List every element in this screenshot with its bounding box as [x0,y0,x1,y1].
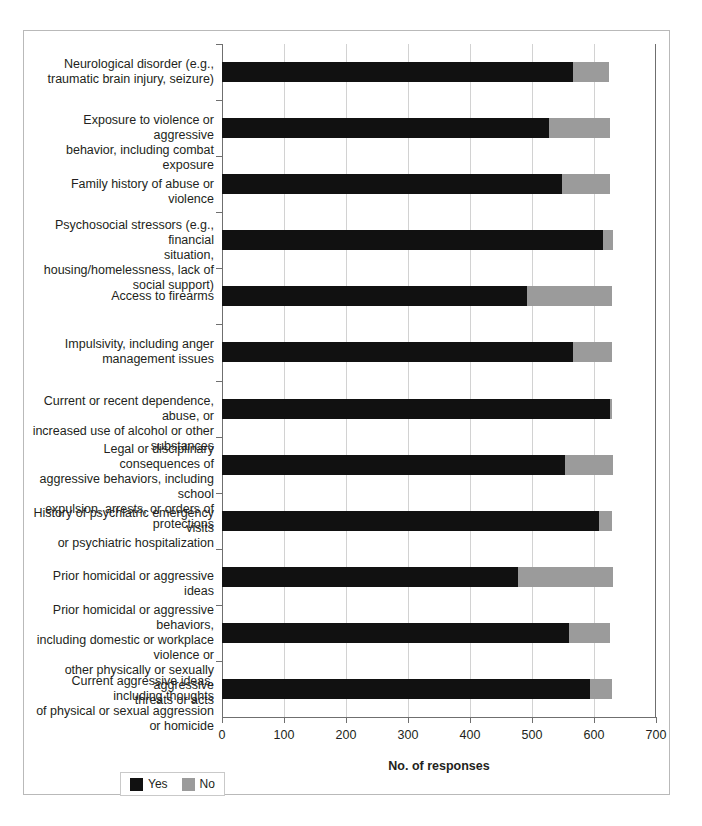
stacked-bar[interactable] [222,679,612,699]
bar-segment-no[interactable] [590,679,612,699]
bar-segment-no[interactable] [518,567,613,587]
bar-segment-no[interactable] [562,174,610,194]
bar-segment-yes[interactable] [222,118,549,138]
category-label-1: Exposure to violence or aggressivebehavi… [30,113,214,173]
y-tick-3 [216,212,222,213]
stacked-bar[interactable] [222,511,612,531]
gridline-200 [346,44,347,717]
bar-segment-no[interactable] [610,399,612,419]
bar-segment-no[interactable] [573,342,612,362]
bar-segment-yes[interactable] [222,62,573,82]
y-tick-7 [216,437,222,438]
scan-bleed-through-text [170,0,670,22]
category-label-4: Access to firearms [30,289,214,304]
y-axis-category-labels: Neurological disorder (e.g.,traumatic br… [30,44,214,717]
category-label-11: Current aggressive ideas, including thou… [30,674,214,734]
x-tick-400 [470,717,471,723]
y-tick-4 [216,268,222,269]
stacked-bar[interactable] [222,230,613,250]
x-tick-600 [594,717,595,723]
gridline-500 [532,44,533,717]
x-tick-label-700: 700 [626,728,686,742]
bar-segment-yes[interactable] [222,286,527,306]
bar-segment-yes[interactable] [222,399,610,419]
x-tick-200 [346,717,347,723]
bar-segment-no[interactable] [599,511,612,531]
bar-segment-no[interactable] [549,118,610,138]
y-tick-9 [216,549,222,550]
x-tick-label-500: 500 [502,728,562,742]
x-tick-500 [532,717,533,723]
stacked-bar[interactable] [222,174,610,194]
bar-segment-yes[interactable] [222,679,590,699]
y-tick-5 [216,324,222,325]
gridline-100 [284,44,285,717]
x-tick-label-600: 600 [564,728,624,742]
x-tick-label-0: 0 [192,728,252,742]
y-tick-10 [216,605,222,606]
bar-segment-yes[interactable] [222,623,569,643]
y-tick-6 [216,381,222,382]
chart-legend: Yes No [120,772,225,796]
y-tick-8 [216,493,222,494]
bar-segment-no[interactable] [603,230,614,250]
legend-swatch-yes-icon [130,778,143,791]
stacked-bar[interactable] [222,623,610,643]
x-tick-label-200: 200 [316,728,376,742]
stacked-bar[interactable] [222,62,609,82]
x-tick-label-100: 100 [254,728,314,742]
x-tick-0 [222,717,223,723]
x-tick-100 [284,717,285,723]
x-axis-line [222,717,656,718]
x-tick-label-400: 400 [440,728,500,742]
x-tick-700 [656,717,657,723]
x-tick-label-300: 300 [378,728,438,742]
plot-right-border [655,44,656,717]
gridline-400 [470,44,471,717]
stacked-bar[interactable] [222,455,613,475]
category-label-3: Psychosocial stressors (e.g., financials… [30,218,214,293]
category-label-8: History of psychiatric emergency visitso… [30,506,214,551]
legend-item-no: No [182,777,215,791]
category-label-5: Impulsivity, including angermanagement i… [30,337,214,367]
bar-segment-yes[interactable] [222,230,603,250]
bar-segment-yes[interactable] [222,567,518,587]
x-axis-title: No. of responses [222,759,656,773]
legend-label-yes: Yes [148,777,168,791]
bar-segment-yes[interactable] [222,455,565,475]
gridline-600 [594,44,595,717]
y-tick-1 [216,100,222,101]
stacked-bar[interactable] [222,567,613,587]
bar-segment-no[interactable] [573,62,609,82]
bar-segment-no[interactable] [527,286,612,306]
y-tick-2 [216,156,222,157]
bar-segment-yes[interactable] [222,511,599,531]
y-tick-11 [216,661,222,662]
category-label-9: Prior homicidal or aggressive ideas [30,569,214,599]
plot-area: 0100200300400500600700 [222,44,656,717]
category-label-2: Family history of abuse or violence [30,177,214,207]
y-axis-line [222,44,223,717]
bar-segment-no[interactable] [569,623,610,643]
category-label-0: Neurological disorder (e.g.,traumatic br… [30,57,214,87]
y-tick-0 [216,44,222,45]
bar-segment-no[interactable] [565,455,613,475]
legend-label-no: No [200,777,215,791]
bar-segment-yes[interactable] [222,174,562,194]
stacked-bar[interactable] [222,342,612,362]
stacked-bar[interactable] [222,286,612,306]
stacked-bar[interactable] [222,118,610,138]
legend-item-yes: Yes [130,777,168,791]
legend-swatch-no-icon [182,778,195,791]
stacked-bar[interactable] [222,399,612,419]
gridline-300 [408,44,409,717]
bar-segment-yes[interactable] [222,342,573,362]
x-tick-300 [408,717,409,723]
